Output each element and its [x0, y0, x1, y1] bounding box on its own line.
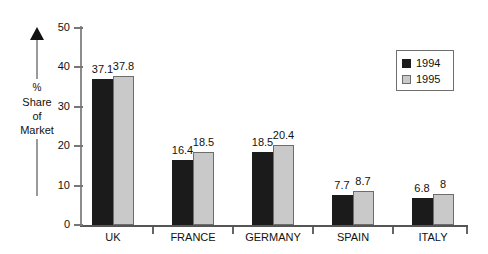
bar-italy-1994 [412, 198, 433, 225]
x-axis-line [80, 225, 468, 227]
x-tick-mark-1 [152, 227, 154, 234]
y-tick-mark-20 [74, 145, 83, 147]
y-axis-title-line-4: Market [2, 123, 72, 137]
y-tick-mark-0 [74, 224, 83, 226]
y-tick-mark-50 [74, 27, 83, 29]
bar-value-uk-1995: 37.8 [106, 60, 141, 72]
bar-value-spain-1995: 8.7 [347, 175, 379, 187]
bar-value-italy-1995: 8 [427, 178, 459, 190]
y-tick-label-10: 10 [36, 179, 70, 191]
legend-label-1995: 1995 [416, 73, 440, 85]
x-tick-mark-4 [392, 227, 394, 234]
x-category-label-italy: ITALY [400, 231, 466, 243]
bar-spain-1995 [353, 191, 374, 225]
y-tick-mark-30 [74, 106, 83, 108]
bar-value-france-1995: 18.5 [186, 136, 221, 148]
x-category-label-spain: SPAIN [318, 231, 388, 243]
y-tick-mark-40 [74, 66, 83, 68]
x-tick-mark-5 [466, 227, 468, 234]
y-axis-line [80, 26, 82, 226]
y-tick-label-0: 0 [36, 218, 70, 230]
legend-swatch-1994-icon [402, 59, 411, 68]
bar-uk-1994 [92, 79, 113, 225]
y-axis-title-line-1: % [2, 81, 72, 95]
bar-italy-1995 [433, 194, 454, 225]
legend-label-1994: 1994 [416, 57, 440, 69]
legend-item-1994: 1994 [402, 55, 453, 71]
y-tick-label-50: 50 [36, 21, 70, 33]
bar-value-germany-1995: 20.4 [266, 129, 301, 141]
y-tick-mark-10 [74, 185, 83, 187]
legend: 1994 1995 [396, 50, 454, 91]
y-tick-label-30: 30 [36, 100, 70, 112]
bar-chart: % Share of Market 0 10 20 30 40 50 37.1 … [0, 0, 488, 254]
bar-france-1994 [172, 160, 193, 225]
bar-spain-1994 [332, 195, 353, 225]
bar-germany-1994 [252, 152, 273, 225]
x-category-label-france: FRANCE [156, 231, 230, 243]
y-tick-label-40: 40 [36, 60, 70, 72]
legend-swatch-1995-icon [402, 75, 411, 84]
bar-uk-1995 [113, 76, 134, 225]
bar-france-1995 [193, 152, 214, 225]
x-category-label-uk: UK [93, 231, 133, 243]
x-category-label-germany: GERMANY [232, 231, 314, 243]
bar-germany-1995 [273, 145, 294, 225]
y-tick-label-20: 20 [36, 139, 70, 151]
legend-item-1995: 1995 [402, 71, 453, 87]
